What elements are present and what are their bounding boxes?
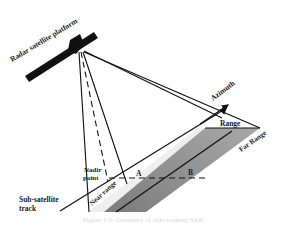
platform-label: Radar satellite platform	[8, 16, 79, 64]
nadir-label: Nadir	[84, 166, 102, 174]
figure-caption: Figure 1.3: Geometry of side-looking SAR	[83, 216, 203, 224]
beam-near-range	[83, 52, 127, 184]
nadir-point-label: point	[83, 174, 99, 182]
point-b-label: B	[188, 168, 193, 177]
sub-satellite-label: Sub-satellite	[19, 195, 59, 204]
azimuth-label: Azimuth	[209, 78, 237, 102]
point-a-label: A	[136, 169, 142, 178]
beam-nadir-dashed	[81, 52, 108, 182]
range-label: Range	[220, 119, 241, 128]
track-label: track	[19, 204, 37, 213]
azimuth-arrow	[225, 108, 226, 109]
beam-far-2	[84, 52, 260, 128]
sar-geometry-diagram: Radar satellite platform Azimuth Range F…	[0, 0, 286, 225]
beam-nadir-left	[79, 52, 89, 212]
swath-centerline	[116, 131, 232, 212]
